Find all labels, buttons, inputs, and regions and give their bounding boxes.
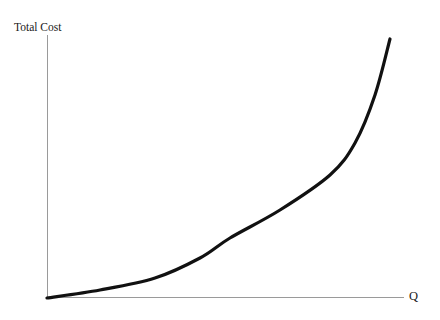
x-axis-label: Q (409, 290, 418, 303)
chart-plot-area (0, 0, 440, 320)
chart-background (0, 0, 440, 320)
y-axis-label: Total Cost (14, 22, 61, 34)
chart-figure: Total Cost Q (0, 0, 440, 320)
